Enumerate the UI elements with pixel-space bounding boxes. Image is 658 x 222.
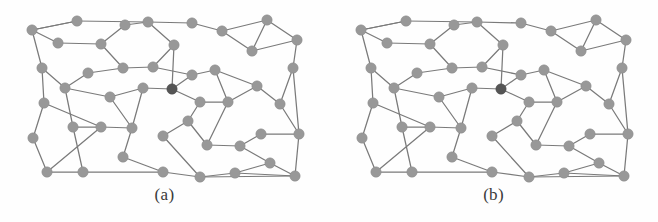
graph-node[interactable] xyxy=(617,63,627,73)
graph-node[interactable] xyxy=(434,92,444,102)
graph-node[interactable] xyxy=(223,97,233,107)
graph-node[interactable] xyxy=(96,122,106,132)
edge-layer xyxy=(32,20,299,177)
graph-node[interactable] xyxy=(256,129,266,139)
graph-node[interactable] xyxy=(53,38,63,48)
graph-node[interactable] xyxy=(105,92,115,102)
graph-edge xyxy=(622,68,628,134)
graph-node[interactable] xyxy=(401,16,411,26)
graph-node[interactable] xyxy=(472,17,482,27)
graph-node[interactable] xyxy=(512,116,522,126)
graph-node[interactable] xyxy=(619,171,629,181)
graph-node[interactable] xyxy=(294,129,304,139)
graph-node[interactable] xyxy=(120,20,130,30)
graph-node[interactable] xyxy=(623,129,633,139)
graph-node[interactable] xyxy=(202,140,212,150)
graph-node[interactable] xyxy=(158,131,168,141)
graph-node[interactable] xyxy=(368,98,378,108)
graph-node[interactable] xyxy=(585,129,595,139)
graph-node[interactable] xyxy=(516,18,526,28)
graph-node[interactable] xyxy=(183,116,193,126)
graph-node[interactable] xyxy=(594,158,604,168)
graph-node[interactable] xyxy=(604,99,614,109)
graph-edge xyxy=(477,22,521,23)
graph-node[interactable] xyxy=(252,81,262,91)
graph-node[interactable] xyxy=(425,122,435,132)
graph-node[interactable] xyxy=(210,65,220,75)
graph-node[interactable] xyxy=(118,63,128,73)
graph-node[interactable] xyxy=(37,63,47,73)
graph-node[interactable] xyxy=(235,141,245,151)
graph-node[interactable] xyxy=(138,83,148,93)
graph-node[interactable] xyxy=(158,167,168,177)
graph-edge xyxy=(394,88,439,97)
graph-node[interactable] xyxy=(127,123,137,133)
graph-node[interactable] xyxy=(449,20,459,30)
graph-node[interactable] xyxy=(68,122,78,132)
graph-node[interactable] xyxy=(60,83,70,93)
graph-node[interactable] xyxy=(516,70,526,80)
graph-node[interactable] xyxy=(39,98,49,108)
graph-node[interactable] xyxy=(288,63,298,73)
graph-node[interactable] xyxy=(357,133,367,143)
graph-node[interactable] xyxy=(382,38,392,48)
graph-node[interactable] xyxy=(621,35,631,45)
graph-node[interactable] xyxy=(42,167,52,177)
graph-node[interactable] xyxy=(524,172,534,182)
graph-node[interactable] xyxy=(83,68,93,78)
graph-node[interactable] xyxy=(564,141,574,151)
graph-edge xyxy=(33,138,47,172)
graph-node[interactable] xyxy=(447,63,457,73)
graph-node[interactable] xyxy=(27,25,37,35)
graph-node[interactable] xyxy=(487,167,497,177)
graph-node[interactable] xyxy=(72,16,82,26)
graph-node[interactable] xyxy=(195,97,205,107)
graph-node[interactable] xyxy=(546,26,556,36)
graph-node[interactable] xyxy=(397,122,407,132)
graph-node[interactable] xyxy=(96,39,106,49)
graph-node[interactable] xyxy=(389,83,399,93)
graph-node[interactable] xyxy=(78,167,88,177)
graph-node[interactable] xyxy=(187,70,197,80)
graph-node[interactable] xyxy=(169,40,179,50)
graph-node[interactable] xyxy=(366,63,376,73)
graph-node[interactable] xyxy=(456,123,466,133)
graph-node[interactable] xyxy=(524,97,534,107)
graph-node[interactable] xyxy=(591,15,601,25)
graph-node[interactable] xyxy=(262,15,272,25)
node-layer xyxy=(27,15,304,182)
graph-node[interactable] xyxy=(581,81,591,91)
graph-node[interactable] xyxy=(447,152,457,162)
graph-node-highlighted[interactable] xyxy=(496,84,506,94)
graph-edge xyxy=(581,40,626,51)
graph-node-highlighted[interactable] xyxy=(167,84,177,94)
graph-node[interactable] xyxy=(356,25,366,35)
graph-node[interactable] xyxy=(143,17,153,27)
graph-node[interactable] xyxy=(467,83,477,93)
graph-node[interactable] xyxy=(247,46,257,56)
graph-node[interactable] xyxy=(292,35,302,45)
graph-node[interactable] xyxy=(559,168,569,178)
graph-node[interactable] xyxy=(217,26,227,36)
graph-node[interactable] xyxy=(477,62,487,72)
graph-node[interactable] xyxy=(552,97,562,107)
graph-node[interactable] xyxy=(425,39,435,49)
graph-node[interactable] xyxy=(148,62,158,72)
graph-edge xyxy=(501,45,503,89)
graph-node[interactable] xyxy=(290,171,300,181)
graph-node[interactable] xyxy=(531,140,541,150)
graph-node[interactable] xyxy=(118,152,128,162)
graph-node[interactable] xyxy=(371,167,381,177)
graph-node[interactable] xyxy=(576,46,586,56)
graph-node[interactable] xyxy=(412,68,422,78)
graph-node[interactable] xyxy=(487,131,497,141)
graph-node[interactable] xyxy=(539,65,549,75)
graph-node[interactable] xyxy=(407,167,417,177)
graph-node[interactable] xyxy=(498,40,508,50)
graph-node[interactable] xyxy=(275,99,285,109)
graph-node[interactable] xyxy=(230,168,240,178)
graph-node[interactable] xyxy=(28,133,38,143)
graph-node[interactable] xyxy=(187,18,197,28)
graph-node[interactable] xyxy=(195,172,205,182)
graph-node[interactable] xyxy=(265,158,275,168)
